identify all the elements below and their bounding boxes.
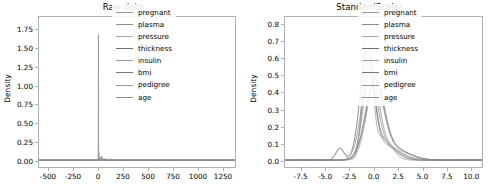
- legend-label-thickness: thickness: [384, 45, 418, 52]
- x-tick-label: 1250: [214, 172, 232, 181]
- y-tick-label: 1.00: [17, 81, 33, 90]
- y-tick-mark: [281, 75, 284, 76]
- legend-swatch-insulin: [116, 60, 133, 61]
- y-tick-label: 0.6: [268, 54, 279, 63]
- legend-swatch-thickness: [116, 48, 133, 49]
- y-tick-label: 0.4: [268, 88, 279, 97]
- figure: Raw data Density 0.000.250.500.751.001.2…: [0, 0, 493, 194]
- x-tick-mark: [173, 168, 174, 171]
- x-tick-mark: [223, 168, 224, 171]
- x-tick-label: -2.5: [342, 172, 356, 181]
- y-tick-mark: [35, 67, 38, 68]
- y-tick-mark: [281, 144, 284, 145]
- legend-standard-scaler: pregnantplasmapressurethicknessinsulinbm…: [358, 4, 422, 106]
- legend-label-age: age: [384, 94, 397, 101]
- legend-label-plasma: plasma: [384, 21, 410, 28]
- legend-item-pregnant[interactable]: pregnant: [362, 7, 418, 18]
- y-tick-label: 0.8: [268, 19, 279, 28]
- legend-item-thickness[interactable]: thickness: [362, 43, 418, 54]
- x-tick-label: 0.0: [368, 172, 379, 181]
- y-tick-label: 1.25: [17, 62, 33, 71]
- y-tick-mark: [281, 58, 284, 59]
- y-tick-label: 0.1: [268, 139, 279, 148]
- x-tick-mark: [148, 168, 149, 171]
- legend-item-bmi[interactable]: bmi: [362, 67, 418, 78]
- y-tick-mark: [281, 127, 284, 128]
- y-tick-mark: [281, 24, 284, 25]
- y-tick-mark: [35, 161, 38, 162]
- x-tick-mark: [374, 168, 375, 171]
- y-tick-mark: [35, 48, 38, 49]
- y-tick-label: 0.50: [17, 119, 33, 128]
- legend-item-pedigree[interactable]: pedigree: [362, 80, 418, 91]
- y-tick-mark: [281, 41, 284, 42]
- y-tick-mark: [35, 123, 38, 124]
- y-tick-label: 0.2: [268, 122, 279, 131]
- x-tick-mark: [398, 168, 399, 171]
- legend-label-pressure: pressure: [138, 33, 169, 40]
- legend-swatch-insulin: [362, 60, 379, 61]
- legend-label-pedigree: pedigree: [384, 81, 416, 88]
- legend-label-bmi: bmi: [138, 69, 152, 76]
- legend-swatch-pedigree: [116, 85, 133, 86]
- x-tick-label: 1000: [189, 172, 207, 181]
- x-tick-label: -500: [40, 172, 56, 181]
- legend-swatch-plasma: [116, 24, 133, 25]
- legend-label-pregnant: pregnant: [138, 9, 171, 16]
- y-axis-label-raw-data: Density: [3, 66, 12, 112]
- y-tick-label: 0.7: [268, 36, 279, 45]
- legend-label-insulin: insulin: [384, 57, 407, 64]
- y-tick-mark: [35, 86, 38, 87]
- legend-label-plasma: plasma: [138, 21, 164, 28]
- legend-swatch-pressure: [116, 36, 133, 37]
- x-tick-label: -7.5: [294, 172, 308, 181]
- legend-swatch-age: [116, 97, 133, 98]
- x-tick-label: 5.0: [417, 172, 428, 181]
- y-tick-mark: [281, 110, 284, 111]
- legend-label-thickness: thickness: [138, 45, 172, 52]
- x-tick-label: 7.5: [441, 172, 452, 181]
- legend-label-pregnant: pregnant: [384, 9, 417, 16]
- kde-curve-bmi: [39, 157, 235, 161]
- x-tick-label: 750: [166, 172, 180, 181]
- legend-item-insulin[interactable]: insulin: [362, 55, 418, 66]
- legend-item-thickness[interactable]: thickness: [116, 43, 172, 54]
- legend-swatch-pressure: [362, 36, 379, 37]
- legend-item-age[interactable]: age: [116, 92, 172, 103]
- y-tick-label: 0.25: [17, 138, 33, 147]
- x-tick-mark: [423, 168, 424, 171]
- subplot-raw-data: Raw data Density 0.000.250.500.751.001.2…: [0, 0, 246, 194]
- legend-swatch-pregnant: [362, 12, 379, 13]
- x-tick-mark: [48, 168, 49, 171]
- legend-item-pedigree[interactable]: pedigree: [116, 80, 172, 91]
- x-tick-mark: [98, 168, 99, 171]
- legend-swatch-pregnant: [116, 12, 133, 13]
- x-tick-mark: [73, 168, 74, 171]
- x-tick-label: 10.0: [463, 172, 479, 181]
- kde-curve-pregnant: [39, 152, 235, 160]
- y-tick-label: 0.00: [17, 157, 33, 166]
- legend-item-pressure[interactable]: pressure: [362, 31, 418, 42]
- legend-label-insulin: insulin: [138, 57, 161, 64]
- x-tick-mark: [198, 168, 199, 171]
- legend-item-plasma[interactable]: plasma: [116, 19, 172, 30]
- y-tick-mark: [35, 29, 38, 30]
- legend-item-pressure[interactable]: pressure: [116, 31, 172, 42]
- legend-item-plasma[interactable]: plasma: [362, 19, 418, 30]
- legend-label-age: age: [138, 94, 151, 101]
- y-tick-mark: [35, 104, 38, 105]
- legend-swatch-age: [362, 97, 379, 98]
- y-tick-label: 1.75: [17, 24, 33, 33]
- y-tick-mark: [281, 92, 284, 93]
- legend-item-bmi[interactable]: bmi: [116, 67, 172, 78]
- x-tick-label: 500: [141, 172, 155, 181]
- legend-item-pregnant[interactable]: pregnant: [116, 7, 172, 18]
- legend-label-pedigree: pedigree: [138, 81, 170, 88]
- y-tick-label: 0.5: [268, 71, 279, 80]
- legend-swatch-bmi: [116, 72, 133, 73]
- legend-label-bmi: bmi: [384, 69, 398, 76]
- kde-curve-age: [39, 158, 235, 161]
- x-tick-label: 2.5: [392, 172, 403, 181]
- legend-item-insulin[interactable]: insulin: [116, 55, 172, 66]
- legend-item-age[interactable]: age: [362, 92, 418, 103]
